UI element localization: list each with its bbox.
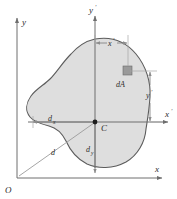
- centroid-label: C: [101, 123, 108, 133]
- y-prime-dim-label-group: y ′: [145, 89, 153, 100]
- origin-label: O: [5, 185, 12, 195]
- da-element-square: [123, 66, 132, 75]
- y-prime-axis-prime-mark: ′: [95, 4, 97, 10]
- centroid-dot: [93, 120, 98, 125]
- global-y-axis-label: y: [21, 17, 26, 27]
- x-prime-dim-label: x: [107, 39, 112, 48]
- figure-canvas: y x O y ′ x ′ C dA x ′ y ′ d x d y d: [0, 0, 177, 199]
- y-prime-dim-label: y: [145, 91, 150, 100]
- x-prime-axis-label: x: [164, 109, 169, 119]
- y-prime-axis-label-group: y ′: [88, 4, 97, 15]
- x-prime-axis-label-group: x ′: [164, 108, 173, 119]
- x-prime-axis-prime-mark: ′: [171, 108, 173, 114]
- d-label: d: [51, 148, 56, 157]
- global-x-axis-label: x: [154, 164, 159, 174]
- dx-label-subscript: x: [52, 119, 56, 125]
- parallel-axis-figure: y x O y ′ x ′ C dA x ′ y ′ d x d y d: [0, 0, 177, 199]
- y-prime-dim-prime-mark: ′: [151, 89, 153, 95]
- dy-label-subscript: y: [90, 150, 94, 156]
- y-prime-axis-label: y: [88, 5, 93, 15]
- da-element-label: dA: [116, 80, 125, 89]
